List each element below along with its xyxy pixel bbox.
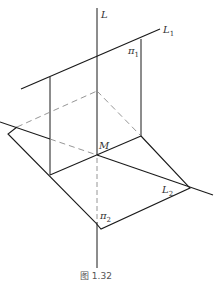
line-L2-hidden [50, 139, 97, 155]
figure-caption: 图 1.32 [80, 271, 112, 281]
plane-pi1-hidden-left [17, 91, 97, 127]
line-L1 [21, 29, 160, 89]
label-L2: L2 [161, 184, 173, 198]
label-M: M [98, 140, 110, 151]
plane-pi1-hidden-right [97, 91, 141, 136]
plane-pi1-bottom-edge [50, 136, 141, 175]
geometry-figure: L L1 π1 M L2 π2 图 1.32 [0, 0, 214, 282]
line-L2-right [97, 155, 213, 195]
line-L2-left [0, 122, 50, 139]
label-L1: L1 [162, 24, 174, 38]
label-pi1: π1 [127, 45, 139, 59]
label-pi2: π2 [99, 210, 111, 224]
label-L: L [100, 9, 108, 20]
